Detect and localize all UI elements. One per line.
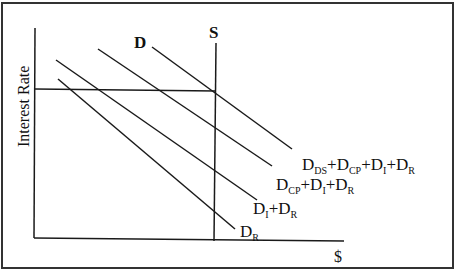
y-axis (34, 28, 35, 238)
label-dds-dcp-di-dr: DDS+DCP+DI+DR (302, 155, 415, 176)
demand-label: D (134, 33, 146, 52)
label-dcp-di-dr: DCP+DI+DR (276, 175, 355, 196)
demand-curve-dr (58, 79, 235, 229)
x-axis (34, 238, 344, 241)
y-axis-label: Interest Rate (15, 66, 32, 147)
interest-rate-diagram: Interest Rate $ S D DR DI+DR DCP+DI+DR D… (0, 0, 457, 271)
label-di-dr: DI+DR (253, 199, 298, 220)
demand-curve-di-dr (56, 60, 257, 200)
demand-curve-total (152, 47, 292, 149)
label-dr: DR (240, 222, 259, 243)
equilibrium-rate-line (35, 89, 216, 91)
supply-label: S (209, 23, 218, 42)
x-axis-label: $ (334, 248, 342, 265)
